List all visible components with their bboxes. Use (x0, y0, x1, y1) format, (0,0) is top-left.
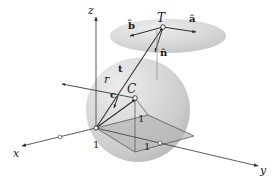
x-axis-label: x (13, 148, 19, 159)
r-vector-label: r (104, 74, 109, 85)
b-hat-label: b̂ (128, 21, 135, 31)
c-vector-label: c (110, 90, 116, 100)
point-C-marker (133, 96, 138, 101)
point-C-label: C (127, 83, 136, 95)
y-unit-tick (158, 141, 162, 145)
origin-marker (94, 126, 98, 130)
x-unit-tick (58, 135, 62, 139)
n-hat-label: n̂ (160, 48, 167, 58)
a-hat-label: â (189, 14, 195, 24)
unit-label-front-right: 1 (144, 142, 150, 152)
z-axis-label: z (88, 5, 94, 16)
point-T-label: T (157, 12, 165, 24)
unit-label-front-left: 1 (93, 140, 99, 150)
figure-canvas: z x y T C â b̂ n̂ t c r 1 1 1 (0, 0, 277, 183)
diagram-vector-graphics (0, 0, 277, 183)
point-T-marker (161, 25, 166, 30)
y-axis-label: y (260, 165, 266, 176)
unit-label-height: 1 (138, 114, 144, 124)
t-vector-label: t (118, 64, 123, 74)
